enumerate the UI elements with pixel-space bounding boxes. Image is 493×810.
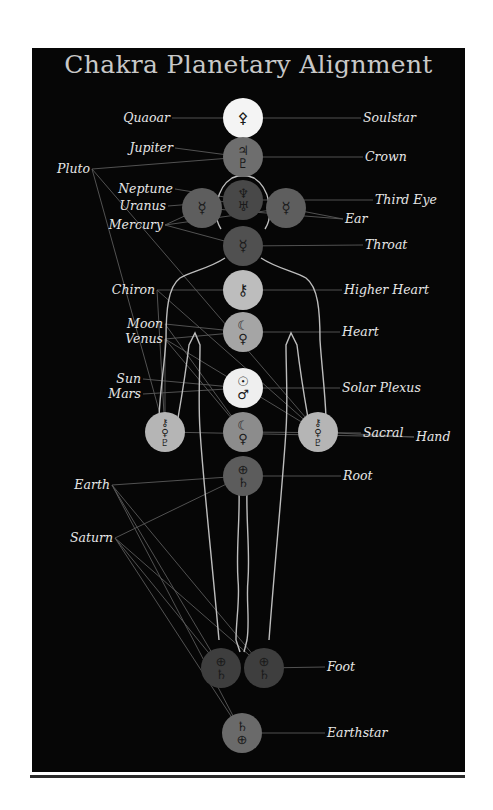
chakra-solar-plexus: ☉♂ <box>223 368 263 408</box>
connector-saturn <box>115 538 221 668</box>
planet-label-venus: Venus <box>125 331 163 346</box>
chakra-circles: ⚴♃♇♆♅☿☿☿⚷☾♀☉♂☾♀⚷♀♇⚷♀♇⊕♄⊕♄⊕♄♄⊕ <box>145 98 338 753</box>
planet-symbol-icon: ⚷ <box>238 281 249 299</box>
chakra-label-earthstar: Earthstar <box>326 725 389 740</box>
connector-earth <box>112 485 242 733</box>
chakra-label-higher-heart: Higher Heart <box>343 282 430 297</box>
planet-label-neptune: Neptune <box>117 181 173 196</box>
bottom-rule <box>30 775 465 778</box>
planet-symbol-icon: ♇ <box>314 437 323 448</box>
chakra-hand-right: ⚷♀♇ <box>298 412 338 452</box>
planet-symbol-icon: ☿ <box>238 237 247 255</box>
chakra-ear-left: ☿ <box>182 188 222 228</box>
chakra-label-root: Root <box>342 468 373 483</box>
planet-symbol-icon: ♄ <box>237 475 249 490</box>
chakra-label-hand: Hand <box>415 429 450 444</box>
chakra-soulstar: ⚴ <box>223 98 263 138</box>
planet-label-chiron: Chiron <box>112 282 155 297</box>
chakra-third-eye: ♆♅ <box>223 180 263 220</box>
planet-symbol-icon: ⚴ <box>238 109 249 127</box>
planet-label-moon: Moon <box>126 316 163 331</box>
chakra-heart: ☾♀ <box>223 312 263 352</box>
chakra-crown: ♃♇ <box>223 137 263 177</box>
connector-earth <box>112 485 264 668</box>
planet-symbol-icon: ♄ <box>215 667 227 682</box>
planet-symbol-icon: ♇ <box>161 437 170 448</box>
planet-label-earth: Earth <box>73 477 110 492</box>
connector-saturn <box>115 538 264 668</box>
chakra-root: ⊕♄ <box>223 456 263 496</box>
connector-earth <box>112 485 221 668</box>
connector-saturn <box>115 538 242 733</box>
connector-saturn <box>115 476 243 538</box>
chakra-ear-right: ☿ <box>266 188 306 228</box>
planet-label-quaoar: Quaoar <box>123 110 171 125</box>
planet-symbol-icon: ♀ <box>238 431 248 446</box>
planet-symbol-icon: ♇ <box>237 156 249 171</box>
chakra-label-ear: Ear <box>344 211 369 226</box>
chakra-label-crown: Crown <box>365 149 407 164</box>
planet-label-uranus: Uranus <box>120 198 166 213</box>
planet-label-mars: Mars <box>107 386 141 401</box>
planet-symbol-icon: ☿ <box>281 199 290 217</box>
planet-symbol-icon: ♂ <box>237 387 249 402</box>
planet-symbol-icon: ⊕ <box>237 732 248 747</box>
chakra-hand-left: ⚷♀♇ <box>145 412 185 452</box>
chakra-label-third-eye: Third Eye <box>375 192 437 207</box>
chakra-label-foot: Foot <box>326 659 356 674</box>
chakra-label-sacral: Sacral <box>363 425 403 440</box>
chakra-sacral: ☾♀ <box>223 412 263 452</box>
planet-symbol-icon: ♀ <box>238 331 248 346</box>
planet-label-saturn: Saturn <box>70 530 113 545</box>
chakra-higher-heart: ⚷ <box>223 270 263 310</box>
planet-label-mercury: Mercury <box>108 217 164 232</box>
chakra-foot-left: ⊕♄ <box>201 648 241 688</box>
connector-chiron <box>157 290 318 432</box>
planet-label-pluto: Pluto <box>56 161 90 176</box>
chakra-throat: ☿ <box>223 226 263 266</box>
connector-pluto <box>92 157 243 169</box>
chakra-label-soulstar: Soulstar <box>363 110 417 125</box>
chakra-label-throat: Throat <box>365 237 408 252</box>
chakra-label-solar-plexus: Solar Plexus <box>342 380 421 395</box>
chakra-foot-right: ⊕♄ <box>244 648 284 688</box>
planet-symbol-icon: ♄ <box>258 667 270 682</box>
planet-symbol-icon: ☿ <box>197 199 206 217</box>
chakra-label-heart: Heart <box>341 324 380 339</box>
planet-symbol-icon: ♅ <box>237 199 249 214</box>
chakra-earthstar: ♄⊕ <box>222 713 262 753</box>
chakra-diagram: ⚴♃♇♆♅☿☿☿⚷☾♀☉♂☾♀⚷♀♇⚷♀♇⊕♄⊕♄⊕♄♄⊕ QuaoarJupi… <box>0 0 493 810</box>
planet-label-jupiter: Jupiter <box>127 140 174 155</box>
planet-label-sun: Sun <box>116 371 141 386</box>
